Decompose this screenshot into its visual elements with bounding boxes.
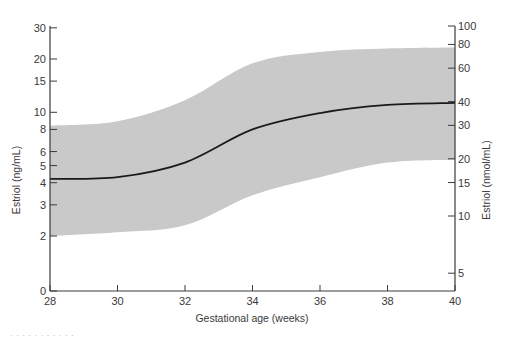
right-tick-label: 15 xyxy=(458,177,470,189)
right-y-axis-title: Estriol (nmol/mL) xyxy=(480,140,492,219)
estriol-chart: 0234568101520305101520304060801002830323… xyxy=(0,0,505,343)
left-tick-label: 2 xyxy=(40,230,46,242)
x-tick-label: 30 xyxy=(111,295,123,307)
right-tick-label: 20 xyxy=(458,153,470,165)
right-tick-label: 30 xyxy=(458,119,470,131)
left-tick-label: 10 xyxy=(34,106,46,118)
x-tick-label: 36 xyxy=(314,295,326,307)
left-tick-label: 20 xyxy=(34,53,46,65)
figure-caption: · · · · · · · · · · · xyxy=(10,330,74,340)
left-tick-label: 6 xyxy=(40,146,46,158)
right-tick-label: 100 xyxy=(458,20,476,32)
right-tick-label: 80 xyxy=(458,38,470,50)
normal-range-area xyxy=(50,48,455,236)
left-tick-label: 8 xyxy=(40,123,46,135)
x-tick-label: 28 xyxy=(44,295,56,307)
right-tick-label: 60 xyxy=(458,62,470,74)
x-axis-title: Gestational age (weeks) xyxy=(195,312,308,324)
right-tick-label: 40 xyxy=(458,96,470,108)
x-tick-label: 32 xyxy=(179,295,191,307)
right-tick-label: 10 xyxy=(458,210,470,222)
left-tick-label: 3 xyxy=(40,199,46,211)
x-tick-label: 38 xyxy=(381,295,393,307)
left-tick-label: 30 xyxy=(34,22,46,34)
normal-range-band xyxy=(50,48,455,236)
left-tick-label: 4 xyxy=(40,177,46,189)
left-tick-label: 15 xyxy=(34,75,46,87)
x-tick-label: 40 xyxy=(449,295,461,307)
left-tick-label: 5 xyxy=(40,160,46,172)
left-y-axis-title: Estriol (ng/mL) xyxy=(10,146,22,214)
x-tick-label: 34 xyxy=(246,295,258,307)
right-tick-label: 5 xyxy=(458,267,464,279)
